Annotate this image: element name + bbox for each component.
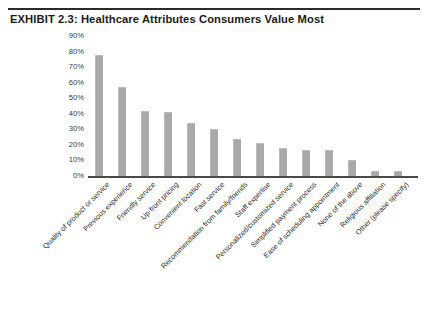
exhibit-figure: EXHIBIT 2.3: Healthcare Attributes Consu… [0,0,428,323]
x-axis-category-labels: Quality of product or servicePrevious ex… [0,0,428,323]
